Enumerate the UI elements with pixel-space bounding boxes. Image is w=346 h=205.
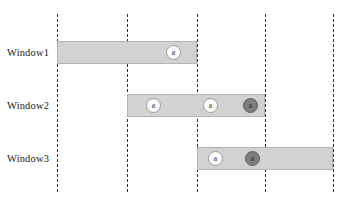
row-label-3: Window3 — [7, 154, 49, 165]
row-label-1: Window1 — [7, 48, 49, 59]
event-marker-3-2: a — [245, 151, 260, 166]
event-marker-2-1: a — [146, 98, 161, 113]
event-marker-2-2: a — [203, 98, 218, 113]
event-marker-3-1: a — [208, 151, 223, 166]
row-label-2: Window2 — [7, 101, 49, 112]
gridline-t5 — [333, 14, 334, 192]
event-marker-2-3: a — [243, 98, 258, 113]
event-marker-1-1: a — [166, 45, 181, 60]
window-timeline-figure: Window1aWindow2aaaWindow3aa — [0, 0, 346, 205]
